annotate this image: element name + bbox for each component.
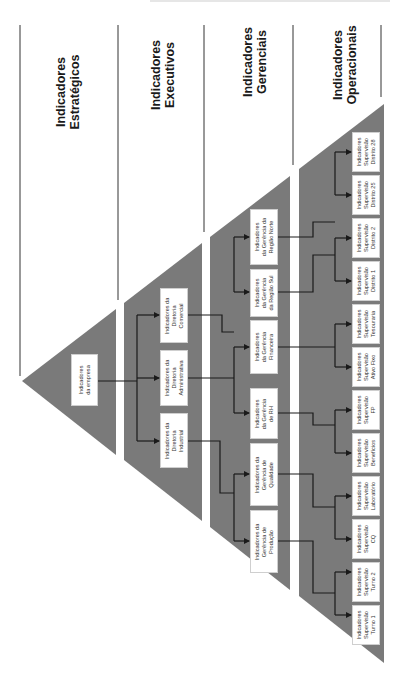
node-sup-fp: IndicadoresSupervisãoFP <box>352 390 380 430</box>
indicator-pyramid-diagram: IndicadoresEstratégicos IndicadoresExecu… <box>0 0 399 675</box>
node-sup-cq: IndicadoresSupervisãoCQ <box>352 519 380 559</box>
node-dir-administrativa: Indicadores daDiretoriaAdministrativa <box>160 350 188 406</box>
node-sup-turno-2: IndicadoresSupervisãoTurno 2 <box>352 562 380 602</box>
node-sup-ativo-fixo: IndicadoresSupervisãoAtivo Fixo <box>352 347 380 387</box>
node-sup-distrito-25: IndicadoresSupervisãoDistrito 25 <box>352 175 380 215</box>
band-estrategicos <box>22 309 116 455</box>
node-ger-producao: Indicadores daGerência deProdução <box>250 510 278 573</box>
node-ger-sul: Indicadoresda Gerênciada Região Sul <box>250 269 278 317</box>
node-dir-industrial: Indicadores daDiretoriaIndustrial <box>160 413 188 468</box>
node-sup-tesouraria: IndicadoresSupervisãoTesouraria <box>352 304 380 344</box>
node-ger-rh: Indicadoresda Gerênciade RH <box>250 388 278 439</box>
node-sup-distrito-28: IndicadoresSupervisãoDistrito 28 <box>352 132 380 172</box>
node-sup-laboratorio: IndicadoresSupervisãoLaboratório <box>352 476 380 516</box>
node-sup-beneficios: IndicadoresSupervisãoBenefícios <box>352 433 380 473</box>
node-ger-qualidade: Indicadores daGerência deQualidade <box>250 443 278 506</box>
node-sup-turno-1: IndicadoresSupervisãoTurno 1 <box>352 605 380 645</box>
node-sup-distrito-2: IndicadoresSupervisãoDistrito 2 <box>352 218 380 258</box>
node-empresa: Indicadoresda empresa <box>71 354 98 406</box>
node-dir-comercial: Indicadores daDiretoriaComercial <box>160 288 188 343</box>
node-ger-financeira: Indicadoresda GerênciaFinanceira <box>250 320 278 374</box>
node-sup-distrito-1: IndicadoresSupervisãoDistrito 1 <box>352 261 380 301</box>
node-ger-norte: Indicadoresda Gerência daRegião Norte <box>250 209 278 265</box>
